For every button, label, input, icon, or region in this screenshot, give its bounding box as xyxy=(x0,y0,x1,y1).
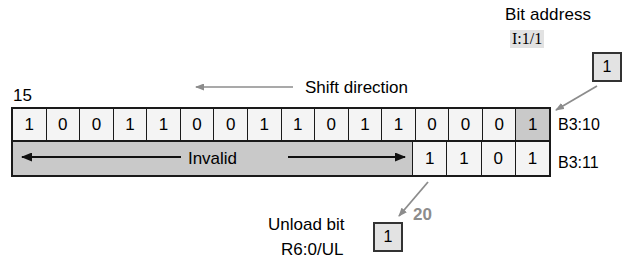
bit-cell: 1 xyxy=(447,142,481,175)
bit-cell: 0 xyxy=(80,109,114,140)
bit-cell: 0 xyxy=(449,109,483,140)
bit-cell: 0 xyxy=(416,109,450,140)
bit-cell: 0 xyxy=(315,109,349,140)
diagram-canvas: Bit address I:1/1 1 Shift direction 15 1… xyxy=(0,0,635,275)
bit-cell: 1 xyxy=(114,109,148,140)
bit-cell: 1 xyxy=(382,109,416,140)
unload-bit-box-text: 1 xyxy=(384,228,393,246)
register-row-b3-10: 1 0 0 1 1 0 0 1 1 0 1 1 0 0 0 1 xyxy=(13,109,549,142)
bit-cell: 0 xyxy=(181,109,215,140)
bit-cell: 1 xyxy=(248,109,282,140)
invalid-label: Invalid xyxy=(181,150,244,167)
unload-bit-value-box: 1 xyxy=(373,222,403,252)
bit-cell: 1 xyxy=(516,142,549,175)
top-bit-index-label: 15 xyxy=(13,87,32,104)
bit-cell: 1 xyxy=(349,109,383,140)
bit-address-leader-arrow xyxy=(556,86,597,110)
bit-address-title: Bit address xyxy=(505,6,591,23)
bit-cell: 0 xyxy=(214,109,248,140)
bit-cell: 1 xyxy=(413,142,447,175)
shift-register-grid: 1 0 0 1 1 0 0 1 1 0 1 1 0 0 0 1 Invalid … xyxy=(11,107,551,177)
bit-cell: 1 xyxy=(147,109,181,140)
bit-cell: 1 xyxy=(13,109,47,140)
unload-bit-label-line2: R6:0/UL xyxy=(281,241,343,258)
bit-cell: 1 xyxy=(282,109,316,140)
bit-cell-highlighted: 1 xyxy=(516,109,549,140)
bit-address-value: I:1/1 xyxy=(510,30,544,48)
bit-address-box-text: 1 xyxy=(603,58,612,76)
register-address-label-b3-10: B3:10 xyxy=(558,117,600,133)
register-address-label-b3-11: B3:11 xyxy=(558,155,599,171)
bit-cell: 0 xyxy=(482,142,516,175)
bit-cell: 0 xyxy=(483,109,517,140)
bit-address-value-box: 1 xyxy=(592,52,622,82)
bit-cell: 0 xyxy=(47,109,81,140)
unload-bit-label-line1: Unload bit xyxy=(268,216,345,233)
invalid-region: Invalid xyxy=(13,142,413,175)
bottom-bit-index-label: 20 xyxy=(413,206,432,223)
register-row-b3-11: Invalid 1 1 0 1 xyxy=(13,142,549,175)
shift-direction-label: Shift direction xyxy=(305,79,408,96)
